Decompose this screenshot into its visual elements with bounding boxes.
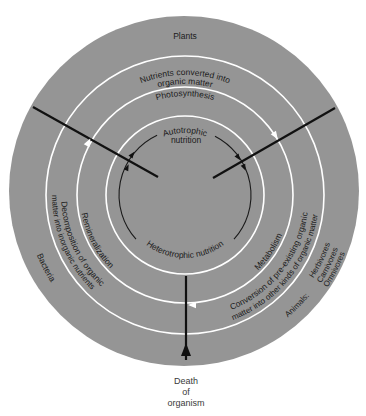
plants-label: Plants xyxy=(173,31,197,41)
organism-label: organism xyxy=(167,398,204,408)
autotrophic-nutrition-label: nutrition xyxy=(171,135,202,145)
death-label: Death xyxy=(174,376,198,386)
of-label: of xyxy=(182,387,190,397)
nutrient-cycle-diagram: Plants Nutrients converted into organic … xyxy=(0,0,366,416)
